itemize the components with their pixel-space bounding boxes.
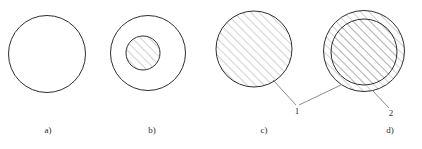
- panel-c: [216, 11, 292, 87]
- panel-b: [111, 16, 186, 91]
- panel-d: [324, 11, 405, 92]
- callout-label-1: 1: [295, 106, 300, 116]
- callout-label-2: 2: [389, 108, 394, 118]
- captions-layer: a)b)c)d): [45, 125, 394, 135]
- callout-2: 2: [372, 90, 393, 118]
- panels-layer: [9, 11, 405, 93]
- caption-d: d): [386, 125, 394, 135]
- outer-circle: [9, 16, 86, 93]
- caption-a: a): [45, 125, 52, 135]
- leader-line-1-1: [273, 80, 296, 105]
- panel-a: [9, 16, 86, 93]
- figure-container: 12 a)b)c)d): [0, 0, 422, 149]
- circle-cross-section-diagram: 12 a)b)c)d): [0, 0, 422, 149]
- caption-b: b): [148, 125, 156, 135]
- leader-line-2-1: [372, 90, 389, 108]
- leader-line-1-2: [299, 85, 341, 105]
- callout-1: 1: [273, 80, 341, 116]
- caption-c: c): [261, 125, 268, 135]
